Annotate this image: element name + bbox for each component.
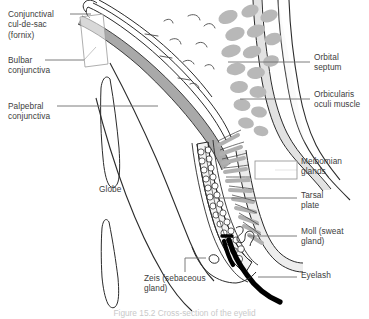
- label-moll-sweat-gland: Moll (sweat gland): [301, 226, 344, 247]
- callout-box-fornix: [80, 14, 108, 67]
- callout-box-meibomian: [255, 161, 297, 179]
- zeis-gland-shape: [208, 253, 220, 264]
- eyelid-cross-section-figure: Conjunctival cul-de-sac (fornix) Bulbar …: [0, 0, 369, 319]
- label-orbital-septum: Orbital septum: [314, 52, 342, 73]
- figure-caption: Figure 15.2 Cross-section of the eyelid: [0, 308, 369, 318]
- label-eyelash: Eyelash: [301, 270, 331, 280]
- label-bulbar-conjunctiva: Bulbar conjunctiva: [8, 55, 50, 76]
- label-orbicularis-oculi-muscle: Orbicularis oculi muscle: [314, 89, 360, 110]
- conjunctival-fold-lower: [101, 220, 118, 308]
- label-tarsal-plate: Tarsal plate: [301, 190, 323, 211]
- label-zeis-sebaceous-gland: Zeis (sebaceous gland): [144, 273, 206, 294]
- label-conjunctival-cul-de-sac: Conjunctival cul-de-sac (fornix): [8, 9, 54, 40]
- label-globe: Globe: [99, 184, 121, 194]
- label-palpebral-conjunctiva: Palpebral conjunctiva: [8, 101, 50, 122]
- label-meibomian-glands: Meibomian glands: [301, 156, 342, 177]
